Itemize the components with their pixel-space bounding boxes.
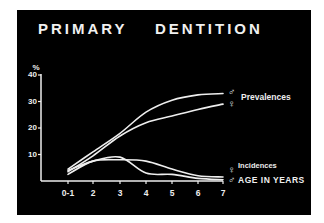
- male-symbol-icon: ♂: [228, 174, 236, 185]
- x-tick-label: 6: [196, 188, 201, 198]
- x-tick-label: 3: [118, 188, 123, 198]
- y-tick-label: 30: [28, 97, 37, 106]
- female-symbol-icon: ♀: [228, 98, 236, 109]
- x-tick-label: 0-1: [62, 188, 75, 198]
- x-tick-label: 7: [221, 188, 226, 198]
- x-tick-label: 4: [144, 188, 149, 198]
- x-tick-label: 2: [91, 188, 96, 198]
- legend-incidences: Incidences: [238, 161, 277, 170]
- male-symbol-icon: ♂: [228, 86, 236, 97]
- line-chart: 10203040%0-1234567♂♀Prevalences♀♂Inciden…: [0, 0, 324, 223]
- y-axis-unit: %: [32, 63, 39, 72]
- x-tick-label: 5: [170, 188, 175, 198]
- y-tick-label: 20: [28, 123, 37, 132]
- y-tick-label: 10: [28, 150, 37, 159]
- x-axis-label: AGE IN YEARS: [238, 175, 305, 185]
- legend-prevalences: Prevalences: [241, 92, 291, 102]
- series-line-incidences-male: [68, 160, 223, 177]
